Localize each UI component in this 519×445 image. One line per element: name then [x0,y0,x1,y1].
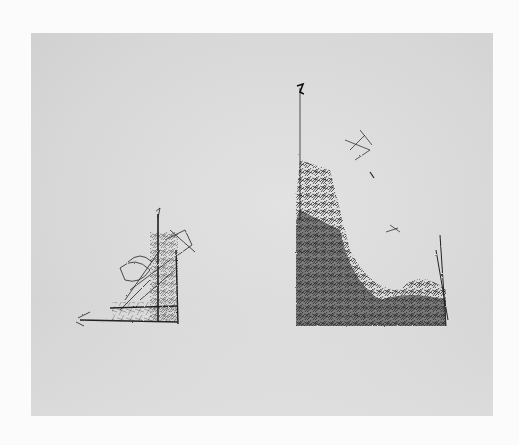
artwork-drawings [0,0,519,445]
small-left-drawing [76,208,195,326]
large-right-drawing [296,84,448,326]
